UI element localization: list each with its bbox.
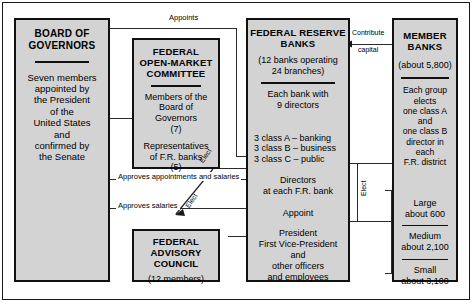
bog-body-line: of the [20, 106, 104, 117]
frb-title-line1: FEDERAL RESERVE [250, 27, 346, 38]
frb-officer-line: and [250, 250, 346, 261]
member-banks-title-line2: BANKS [396, 41, 454, 52]
frb-officer-line: First Vice-President [250, 239, 346, 250]
fac-title-line: FEDERAL [137, 236, 215, 247]
bog-body-line: appointed by [20, 83, 104, 94]
fac-title-line: ADVISORY [137, 247, 215, 258]
member-group-name: Large [396, 198, 454, 209]
member-group-divider-2 [402, 259, 448, 260]
box-member-banks[interactable]: MEMBER BANKS (about 5,800) Each group el… [392, 18, 458, 282]
bog-body-line: the Senate [20, 151, 104, 162]
fomc-title-line: FEDERAL [137, 46, 215, 57]
frb-appoint: Appoint [250, 208, 346, 219]
box-federal-reserve-banks[interactable]: FEDERAL RESERVE BANKS (12 banks operatin… [246, 18, 350, 282]
fomc-title: FEDERAL OPEN-MARKET COMMITTEE [137, 46, 215, 80]
box-federal-advisory-council[interactable]: FEDERAL ADVISORY COUNCIL (12 members) [132, 229, 220, 282]
member-banks-elect-line: director in each [396, 137, 454, 158]
frb-directors-line: 9 directors [250, 100, 346, 111]
frb-divider [261, 82, 335, 84]
member-banks-count: (about 5,800) [396, 60, 454, 71]
board-of-governors-title-line2: GOVERNORS [20, 40, 104, 52]
bog-to-fomc-line [110, 118, 132, 119]
elect-member-vertical [357, 163, 358, 221]
box-board-of-governors[interactable]: BOARD OF GOVERNORS Seven members appoint… [14, 18, 110, 282]
fac-members: (12 members) [137, 274, 215, 285]
bog-body-line: and [20, 129, 104, 140]
frb-officer-line: President [250, 228, 346, 239]
frb-count-line: 24 branches) [250, 66, 346, 77]
fomc-body-line: Board of [137, 102, 215, 113]
member-banks-elect-line: one class A and [396, 106, 454, 127]
appoints-line-vertical [236, 28, 237, 156]
member-group-name: Medium [396, 231, 454, 242]
frb-count: (12 banks operating 24 branches) [250, 55, 346, 77]
fomc-body-line: Governors [137, 113, 215, 124]
frb-title: FEDERAL RESERVE BANKS [250, 27, 346, 49]
diagram-canvas: BOARD OF GOVERNORS Seven members appoint… [0, 0, 474, 304]
bog-body-line: Seven members [20, 72, 104, 83]
board-of-governors-body: Seven members appointed by the President… [20, 72, 104, 163]
frb-directors-at-bank: Directors at each F.R. bank [250, 175, 346, 197]
member-group-name: Small [396, 265, 454, 276]
label-approves-appointments-and-salaries: Approves appointments and salaries [116, 172, 241, 181]
member-group-count: about 600 [396, 209, 454, 220]
fac-title-line: COUNCIL [137, 258, 215, 269]
label-approves-salaries: Approves salaries [116, 201, 180, 210]
member-group-small: Small about 3,100 [396, 265, 454, 287]
member-banks-elects: Each group elects one class A and one cl… [396, 85, 454, 168]
frb-officer-line: and employees [250, 272, 346, 283]
member-banks-elect-line: Each group elects [396, 85, 454, 106]
member-group-count: about 3,100 [396, 276, 454, 287]
fomc-body-line: (7) [137, 124, 215, 135]
bog-body-line: the President [20, 94, 104, 105]
frb-class-c: 3 class C – public [254, 154, 346, 165]
member-banks-title-line1: MEMBER [396, 30, 454, 41]
fomc-body-line: Members of the [137, 92, 215, 103]
label-contribute-capital-line1: Contribute [352, 29, 384, 36]
frb-directors-at-line: at each F.R. bank [250, 186, 346, 197]
member-group-large: Large about 600 [396, 198, 454, 220]
fomc-body-line: Representatives [137, 141, 215, 152]
member-group-medium: Medium about 2,100 [396, 231, 454, 253]
fomc-title-line: COMMITTEE [137, 68, 215, 79]
label-contribute-capital-line2: capital [358, 46, 378, 53]
member-banks-elect-line: F.R. district [396, 157, 454, 167]
member-group-count: about 2,100 [396, 242, 454, 253]
frb-officer-line: other officers [250, 261, 346, 272]
board-of-governors-title-line1: BOARD OF [20, 28, 104, 40]
label-appoints: Appoints [166, 13, 201, 22]
member-groups-brace [385, 190, 392, 274]
label-elect-member-banks: Elect [360, 180, 367, 196]
frb-class-b: 3 class B – business [254, 143, 346, 154]
frb-count-line: (12 banks operating [250, 55, 346, 66]
frb-title-line2: BANKS [250, 38, 346, 49]
frb-directors-at-line: Directors [250, 175, 346, 186]
fomc-body-governors: Members of the Board of Governors (7) [137, 92, 215, 135]
board-of-governors-title: BOARD OF GOVERNORS [20, 28, 104, 52]
appoints-line-into-frb [236, 156, 246, 157]
member-group-divider-1 [402, 225, 448, 226]
frb-class-a: 3 class A – banking [254, 133, 346, 144]
fomc-divider [151, 85, 201, 87]
frb-officers: President First Vice-President and other… [250, 228, 346, 282]
appoints-line-horizontal [110, 28, 237, 29]
member-banks-title: MEMBER BANKS [396, 30, 454, 52]
bog-body-line: confirmed by [20, 140, 104, 151]
fac-title: FEDERAL ADVISORY COUNCIL [137, 236, 215, 270]
board-of-governors-divider [35, 61, 89, 63]
frb-classes: 3 class A – banking 3 class B – business… [250, 133, 346, 165]
fomc-title-line: OPEN-MARKET [137, 57, 215, 68]
member-banks-divider [401, 77, 449, 79]
member-banks-elect-line: one class B [396, 126, 454, 136]
frb-directors-line: Each bank with [250, 89, 346, 100]
frb-directors: Each bank with 9 directors [250, 89, 346, 111]
bog-body-line: United States [20, 117, 104, 128]
contribute-capital-line [350, 44, 394, 45]
